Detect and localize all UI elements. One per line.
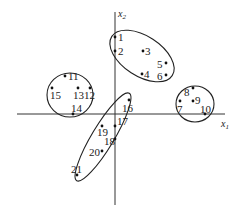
point-label: 3 (145, 45, 151, 57)
cluster-a-outline (101, 20, 183, 93)
x1-axis-label: x1 (220, 118, 229, 131)
data-point-5: 5 (157, 58, 167, 70)
point-group: 123456789101112131415161718192021 (50, 31, 212, 176)
point-label: 10 (200, 103, 212, 115)
data-point-10: 10 (200, 103, 212, 115)
point-label: 15 (50, 89, 62, 101)
data-point-12: 12 (84, 87, 95, 101)
data-point-21: 21 (71, 163, 82, 176)
point-dot (165, 62, 168, 65)
point-label: 12 (84, 89, 95, 101)
point-dot (165, 74, 168, 77)
point-dot (192, 87, 195, 90)
data-point-3: 3 (142, 45, 151, 57)
data-point-13: 13 (73, 87, 85, 101)
point-label: 21 (71, 163, 82, 175)
point-dot (141, 73, 144, 76)
point-dot (64, 75, 67, 78)
point-label: 17 (117, 115, 129, 127)
x2-axis-label: x2 (117, 8, 126, 21)
data-point-8: 8 (184, 86, 194, 98)
data-point-14: 14 (71, 102, 83, 115)
data-point-19: 19 (97, 125, 109, 138)
point-dot (179, 100, 182, 103)
point-label: 6 (157, 70, 163, 82)
point-dot (142, 50, 145, 53)
data-point-11: 11 (64, 70, 79, 82)
point-label: 1 (118, 31, 124, 43)
point-label: 16 (122, 102, 134, 114)
point-dot (192, 100, 195, 103)
point-dot (114, 50, 117, 53)
data-point-17: 17 (114, 115, 129, 127)
point-label: 19 (97, 126, 109, 138)
point-dot (128, 99, 131, 102)
data-point-16: 16 (122, 99, 134, 114)
point-label: 11 (68, 70, 79, 82)
data-point-7: 7 (177, 100, 183, 115)
point-dot (114, 125, 117, 128)
data-point-15: 15 (50, 87, 62, 101)
data-point-20: 20 (89, 146, 103, 158)
point-label: 20 (89, 146, 101, 158)
point-dot (114, 36, 117, 39)
point-label: 8 (184, 86, 190, 98)
point-label: 7 (177, 103, 183, 115)
point-dot (101, 150, 104, 153)
point-label: 4 (144, 68, 150, 80)
point-label: 2 (118, 45, 124, 57)
point-label: 14 (71, 102, 83, 114)
cluster-diagram: x1 x2 123456789101112131415161718192021 (0, 0, 245, 223)
point-label: 5 (157, 58, 163, 70)
point-label: 13 (73, 89, 85, 101)
